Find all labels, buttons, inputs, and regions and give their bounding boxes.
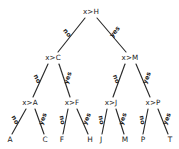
internal-node-xA: x>A — [22, 98, 38, 107]
internal-node-xP: x>P — [146, 98, 161, 107]
leaf-node-J: J — [99, 135, 102, 144]
tree-svg: noyesnoyesnoyesnoyesnoyesnoyesnoyes x>Hx… — [0, 0, 179, 149]
leaf-node-P: P — [141, 135, 146, 144]
edge-label-yes: yes — [141, 71, 153, 86]
edge-label-no: no — [32, 73, 43, 85]
leaf-node-T: T — [167, 135, 173, 144]
leaf-node-H: H — [87, 135, 93, 144]
leaf-node-A: A — [7, 135, 12, 144]
edge-label-no: no — [61, 27, 73, 39]
internal-node-xC: x>C — [45, 53, 61, 62]
edge-labels-group: noyesnoyesnoyesnoyesnoyesnoyesnoyes — [10, 24, 173, 126]
edge-label-no: no — [57, 115, 67, 126]
edge-label-yes: yes — [108, 24, 122, 39]
edge-label-yes: yes — [81, 111, 93, 126]
decision-tree-diagram: noyesnoyesnoyesnoyesnoyesnoyesnoyes x>Hx… — [0, 0, 179, 149]
edge-label-no: no — [10, 114, 22, 126]
edge-label-no: no — [111, 73, 122, 85]
internal-node-xH: x>H — [83, 7, 99, 16]
edge-label-yes: yes — [161, 112, 173, 127]
leaf-node-C: C — [42, 135, 47, 144]
leaf-node-F: F — [60, 135, 64, 144]
leaf-node-M: M — [122, 135, 128, 144]
edge-label-no: no — [96, 115, 106, 126]
internal-node-xF: x>F — [65, 98, 80, 107]
edge-label-yes: yes — [62, 71, 73, 85]
internal-node-xJ: x>J — [105, 98, 118, 107]
internal-node-xM: x>M — [122, 53, 139, 62]
edge-label-no: no — [137, 115, 147, 126]
edge-label-yes: yes — [37, 112, 49, 126]
edge-label-yes: yes — [117, 112, 128, 126]
